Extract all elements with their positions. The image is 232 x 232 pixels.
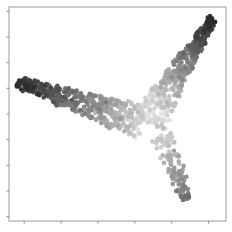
data-point: [41, 88, 46, 93]
data-point: [138, 131, 143, 136]
data-point: [183, 65, 188, 70]
data-point: [119, 101, 124, 106]
data-point: [199, 43, 204, 48]
data-point: [98, 96, 103, 101]
data-point: [136, 121, 141, 126]
data-point: [194, 48, 199, 53]
data-point: [193, 56, 198, 61]
data-point: [67, 86, 72, 91]
data-point: [104, 106, 109, 111]
data-point: [136, 110, 141, 115]
data-point: [179, 60, 184, 65]
data-point: [132, 106, 137, 111]
data-point: [139, 114, 144, 119]
data-point: [169, 162, 174, 167]
data-point: [88, 92, 93, 97]
data-point: [155, 125, 160, 130]
data-point: [167, 118, 172, 123]
data-point: [49, 86, 54, 91]
data-point: [161, 153, 166, 158]
data-point: [44, 92, 49, 97]
data-point: [158, 101, 163, 106]
data-point: [89, 115, 94, 120]
data-point: [165, 113, 170, 118]
data-point: [185, 57, 190, 62]
data-point: [104, 124, 109, 129]
data-point: [150, 139, 155, 144]
data-point: [206, 27, 211, 32]
data-point: [168, 131, 173, 136]
data-point: [163, 87, 168, 92]
data-point: [74, 88, 79, 93]
data-point: [83, 111, 88, 116]
data-point: [128, 107, 133, 112]
data-point: [128, 112, 133, 117]
data-point: [169, 109, 174, 114]
data-point: [177, 75, 182, 80]
data-point: [36, 92, 41, 97]
data-point: [160, 81, 165, 86]
data-point: [175, 93, 180, 98]
data-point: [108, 101, 113, 106]
data-point: [84, 99, 89, 104]
data-point: [60, 99, 65, 104]
data-point: [181, 164, 186, 169]
data-point: [159, 137, 164, 142]
data-point: [159, 111, 164, 116]
data-point: [162, 161, 167, 166]
data-point: [109, 107, 114, 112]
data-point: [80, 96, 85, 101]
data-point: [148, 108, 153, 113]
data-point: [162, 92, 167, 97]
data-point: [166, 154, 171, 159]
data-point: [205, 21, 210, 26]
data-point: [71, 89, 76, 94]
data-point: [190, 66, 195, 71]
data-point: [165, 100, 170, 105]
data-point: [155, 146, 160, 151]
data-point: [172, 148, 177, 153]
data-point: [168, 167, 173, 172]
data-point: [62, 90, 67, 95]
data-point: [115, 123, 120, 128]
data-point: [51, 99, 56, 104]
data-point: [32, 85, 37, 90]
data-point: [167, 94, 172, 99]
data-point: [180, 83, 185, 88]
data-point: [150, 87, 155, 92]
data-point: [74, 95, 79, 100]
scatter-chart: [0, 0, 232, 232]
data-point: [136, 103, 141, 108]
data-point: [179, 68, 184, 73]
data-point: [94, 117, 99, 122]
data-point: [113, 102, 118, 107]
data-point: [43, 83, 48, 88]
data-point: [179, 195, 184, 200]
data-point: [169, 135, 174, 140]
data-point: [98, 116, 103, 121]
data-point: [150, 94, 155, 99]
data-point: [181, 51, 186, 56]
data-point: [180, 177, 185, 182]
data-point: [172, 140, 177, 145]
data-point: [62, 95, 67, 100]
data-point: [126, 125, 131, 130]
data-point: [203, 41, 208, 46]
data-point: [131, 127, 136, 132]
data-point: [146, 120, 151, 125]
data-point: [177, 173, 182, 178]
data-point: [156, 116, 161, 121]
data-point: [14, 84, 19, 89]
data-point: [122, 129, 127, 134]
data-point: [180, 55, 185, 60]
data-point: [70, 98, 75, 103]
data-point: [50, 93, 55, 98]
data-point: [176, 159, 181, 164]
data-point: [183, 185, 188, 190]
data-point: [93, 94, 98, 99]
data-point: [177, 182, 182, 187]
data-point: [118, 117, 123, 122]
data-point: [196, 29, 201, 34]
data-point: [174, 189, 179, 194]
data-points: [14, 14, 217, 203]
